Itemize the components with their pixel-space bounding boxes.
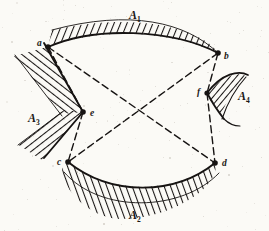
scan-speck <box>103 223 105 225</box>
region-label-A4: A4 <box>238 90 250 105</box>
scan-speck <box>259 127 260 128</box>
scan-speck <box>110 107 111 108</box>
scan-speck <box>254 203 255 204</box>
scan-speck <box>43 144 44 145</box>
vertex-label-b: b <box>224 52 229 62</box>
scan-speck <box>246 50 247 51</box>
scan-speck <box>257 6 258 7</box>
scan-speck <box>229 118 230 119</box>
vertex-dot-d <box>212 160 218 166</box>
vertex-dot-b <box>215 50 221 56</box>
scan-speck <box>83 7 84 8</box>
scan-speck <box>203 216 204 217</box>
geometry-figure <box>0 0 269 231</box>
scan-speck <box>152 118 153 119</box>
scan-speck <box>111 6 112 7</box>
scan-speck <box>31 91 32 92</box>
scan-speck <box>58 115 59 116</box>
scan-speck <box>155 86 156 87</box>
arc-A4-tail <box>224 119 240 126</box>
scan-speck <box>88 76 90 78</box>
scan-speck <box>171 62 173 64</box>
scan-speck <box>16 2 18 4</box>
scan-speck <box>129 74 130 75</box>
scan-speck <box>64 119 65 120</box>
scan-speck <box>18 111 19 112</box>
scan-speck <box>160 210 161 211</box>
scan-speck <box>136 111 137 112</box>
scan-speck <box>103 48 104 49</box>
scan-speck <box>183 47 184 48</box>
scan-speck <box>268 52 269 53</box>
scan-speck <box>121 224 122 225</box>
scan-speck <box>85 142 86 143</box>
scan-speck <box>75 5 76 6</box>
scan-speck <box>169 157 171 159</box>
vertex-label-f: f <box>197 88 200 98</box>
scan-speck <box>49 84 50 85</box>
scan-speck <box>180 81 181 82</box>
scan-speck <box>32 155 34 157</box>
scan-speck <box>90 216 91 217</box>
scan-speck <box>230 22 231 23</box>
vertex-dot-c <box>65 159 71 165</box>
scan-speck <box>52 165 54 167</box>
region-label-A3: A3 <box>28 112 40 127</box>
scan-speck <box>115 16 116 17</box>
scan-speck <box>135 138 136 139</box>
scan-speck <box>255 129 256 130</box>
vertex-dot-e <box>80 109 86 115</box>
scan-speck <box>207 72 209 74</box>
scan-speck <box>228 174 230 176</box>
scan-speck <box>79 173 80 174</box>
vertex-dot-f <box>204 90 209 95</box>
scan-speck <box>24 80 26 82</box>
scan-speck <box>252 86 253 87</box>
vertex-label-e: e <box>90 109 94 119</box>
region-label-A2: A2 <box>129 209 141 224</box>
scan-speck <box>48 187 49 188</box>
scan-speck <box>201 66 202 67</box>
scan-speck <box>11 41 13 43</box>
scan-speck <box>6 101 8 103</box>
scan-speck <box>83 105 85 107</box>
region-A4-boundary <box>195 65 260 126</box>
scan-speck <box>124 120 125 121</box>
vertex-label-a: a <box>37 39 42 49</box>
scan-speck <box>139 122 140 123</box>
scan-speck <box>239 12 240 13</box>
vertex-dot-a <box>45 44 51 50</box>
region-label-A1: A1 <box>129 9 141 24</box>
scan-speck <box>45 21 47 23</box>
region-A4-hatch <box>195 65 260 125</box>
